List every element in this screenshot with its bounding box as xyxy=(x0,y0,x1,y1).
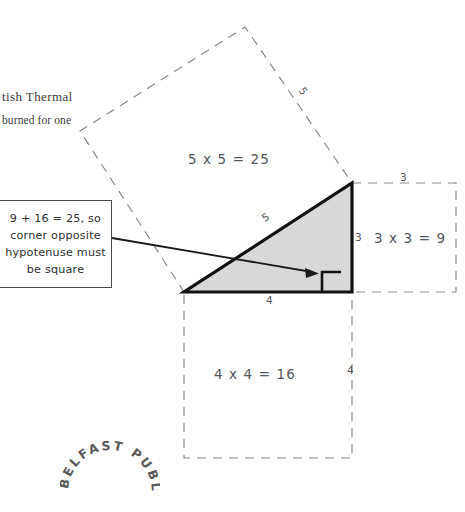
vertical-leg-square-top-label: 3 xyxy=(400,171,407,183)
library-stamp-text: BELFAST PUBLIC LIBRARIES xyxy=(60,420,160,494)
callout-line-2: corner opposite xyxy=(10,227,101,244)
annotation-callout: 9 + 16 = 25, so corner opposite hypotenu… xyxy=(0,200,112,288)
callout-line-1: 9 + 16 = 25, so xyxy=(10,210,101,227)
horizontal-leg-square-right-label: 4 xyxy=(347,364,354,376)
hypotenuse-square-label: 5 x 5 = 25 xyxy=(188,151,270,167)
vertical-leg-square-label: 3 x 3 = 9 xyxy=(374,230,446,246)
right-triangle xyxy=(184,183,352,292)
callout-line-4: be square xyxy=(27,261,84,278)
callout-line-3: hypotenuse must xyxy=(5,244,106,261)
scanned-page: tish Thermal burned for one 5 x 5 = 25 3… xyxy=(0,0,465,512)
library-stamp: BELFAST PUBLIC LIBRARIES xyxy=(60,420,160,512)
bleed-through-line-2: burned for one xyxy=(2,114,71,126)
triangle-right-leg-label: 3 xyxy=(355,231,362,243)
triangle-bottom-leg-label: 4 xyxy=(266,294,273,306)
horizontal-leg-square-label: 4 x 4 = 16 xyxy=(214,366,296,382)
bleed-through-line-1: tish Thermal xyxy=(2,89,73,105)
